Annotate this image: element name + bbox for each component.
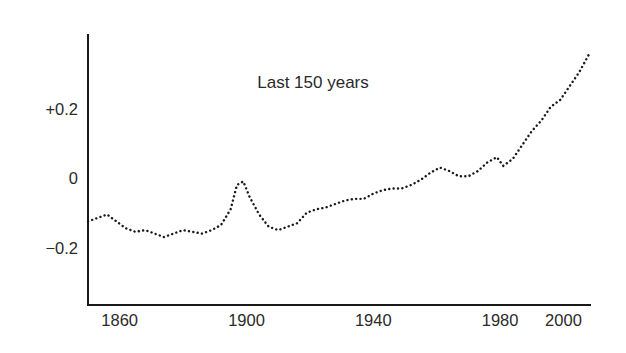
x-tick-label: 1900 [228,311,265,329]
y-tick-label: +0.2 [45,100,78,118]
y-tick-label: −0.2 [45,239,78,257]
chart-figure: Last 150 years +0.20−0.2 186019001940198… [0,0,626,353]
x-tick-label: 1940 [355,311,392,329]
chart-title: Last 150 years [257,73,369,92]
x-tick-label: 1980 [482,311,519,329]
x-tick-label: 1860 [101,311,138,329]
temperature-anomaly-chart: Last 150 years +0.20−0.2 186019001940198… [0,0,626,353]
y-tick-labels: +0.20−0.2 [45,100,78,257]
x-tick-label: 2000 [545,311,582,329]
y-tick-label: 0 [69,169,78,187]
x-tick-labels: 18601900194019802000 [101,311,581,329]
